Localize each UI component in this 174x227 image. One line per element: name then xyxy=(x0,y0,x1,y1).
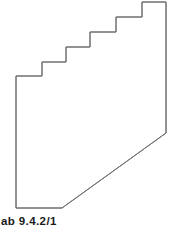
figure-container: ab 9.4.2/1 xyxy=(0,0,174,227)
drawing-background xyxy=(0,0,174,227)
stepped-polygon-drawing xyxy=(0,0,174,227)
